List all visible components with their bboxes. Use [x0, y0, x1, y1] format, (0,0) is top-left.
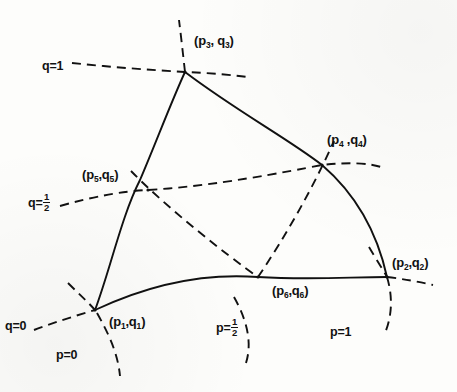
axis-label-q-equals-1: q=1	[42, 60, 63, 73]
node-label-p5: (p5,q5)	[82, 168, 118, 181]
node-marker-p6	[256, 275, 259, 278]
axis-label-q-equals-0-text: q=0	[5, 319, 26, 333]
node-marker-p5	[146, 188, 149, 191]
fraction-denominator: 2	[43, 203, 50, 213]
solid-side-p3-p4-p2	[185, 72, 387, 277]
node-marker-p3	[183, 70, 186, 73]
node-label-p2: (p2,q2)	[392, 256, 428, 269]
node-label-p2-text: (p2,q2)	[392, 255, 428, 270]
dashed-curve-p-equals-0-below-p1	[68, 283, 95, 310]
dashed-curve-q-equals-1	[72, 63, 247, 77]
axis-label-q-equals-half: q=12	[28, 192, 50, 212]
node-label-p5-text: (p5,q5)	[82, 167, 118, 182]
node-label-p4-text: (p4 ,q4)	[327, 132, 367, 147]
fraction-one-half-q: 12	[43, 192, 50, 212]
dashed-curve-p-equals-1-below-p2	[385, 277, 391, 333]
axis-label-p-equals-half: p=12	[216, 317, 238, 337]
axis-label-p-equals-1-text: p=1	[330, 325, 351, 339]
node-label-p6-text: (p6,q6)	[272, 283, 308, 298]
dashed-curve-p-equals-half-upper-right	[258, 141, 334, 277]
node-marker-p1	[93, 308, 96, 311]
solid-side-p1-p6-p2	[95, 276, 387, 310]
axis-label-q-equals-half-text: q=	[28, 196, 43, 210]
node-label-p3: (p3, q3)	[194, 34, 234, 47]
dashed-curve-q-equals-0-right	[387, 277, 433, 285]
node-label-p4: (p4 ,q4)	[327, 133, 367, 146]
dashed-curve-p-equals-half-upper-left	[131, 171, 258, 277]
axis-label-p-equals-half-text: p=	[216, 321, 231, 335]
node-label-p1: (p1,q1)	[109, 315, 145, 328]
fraction-one-half-p: 12	[231, 317, 238, 337]
axis-label-p-equals-0: p=0	[56, 349, 77, 362]
node-marker-p4	[320, 163, 323, 166]
dashed-curve-p-equals-0-above-p3	[179, 20, 185, 72]
dashed-curve-q-equals-0-left	[34, 310, 95, 330]
dashed-curve-p-equals-1-above-p2	[369, 247, 387, 277]
axis-label-q-equals-1-text: q=1	[42, 59, 63, 73]
axis-label-p-equals-0-text: p=0	[56, 348, 77, 362]
node-label-p1-text: (p1,q1)	[109, 314, 145, 329]
node-marker-p2	[385, 275, 388, 278]
fraction-denominator: 2	[231, 328, 238, 338]
node-label-p3-text: (p3, q3)	[194, 33, 234, 48]
axis-label-q-equals-0: q=0	[5, 320, 26, 333]
axis-label-p-equals-1: p=1	[330, 326, 351, 339]
node-label-p6: (p6,q6)	[272, 284, 308, 297]
